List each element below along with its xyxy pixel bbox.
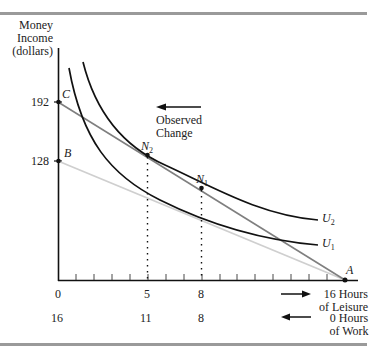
x-tick-label-5: 5 — [144, 288, 150, 301]
work-tick-label-8: 8 — [198, 312, 204, 325]
curve-label-u2: U2 — [322, 212, 335, 229]
point-a — [343, 278, 348, 283]
arrow-left-icon — [156, 104, 166, 111]
u1-subscript: 1 — [331, 243, 335, 252]
u2-subscript: 2 — [331, 218, 335, 227]
u1-letter: U — [322, 236, 331, 250]
observed-change-label: Observed Change — [156, 114, 202, 140]
x-tick-label-8: 8 — [198, 288, 204, 301]
point-label-a: A — [346, 264, 353, 277]
arrow-left-icon — [281, 314, 290, 321]
y-axis-label: Money Income (dollars) — [3, 19, 53, 58]
work-tick-label-11: 11 — [140, 312, 152, 325]
indifference-curve-u2 — [83, 62, 318, 220]
point-label-n1: N1 — [196, 173, 208, 190]
n1-subscript: 1 — [204, 179, 208, 188]
point-c — [56, 100, 61, 105]
n2-letter: N — [141, 139, 149, 153]
work-tick-label-16: 16 — [51, 312, 63, 325]
work-label-line2: of Work — [326, 325, 372, 338]
point-label-b: B — [64, 147, 71, 160]
n1-letter: N — [196, 172, 204, 186]
point-label-c: C — [62, 88, 70, 101]
point-label-n2: N2 — [141, 140, 153, 157]
arrow-right-icon — [302, 291, 311, 298]
curve-label-u1: U1 — [322, 237, 335, 254]
y-tick-label-192: 192 — [31, 96, 49, 109]
point-b — [56, 159, 61, 164]
n2-subscript: 2 — [149, 146, 153, 155]
work-axis-label: 0 Hours of Work — [326, 312, 372, 338]
observed-change-line2: Change — [156, 127, 202, 140]
y-axis-label-line3: (dollars) — [3, 45, 53, 58]
y-tick-label-128: 128 — [31, 155, 49, 168]
x-tick-label-0: 0 — [55, 288, 61, 301]
indifference-curve-u1 — [69, 68, 318, 245]
u2-letter: U — [322, 211, 331, 225]
